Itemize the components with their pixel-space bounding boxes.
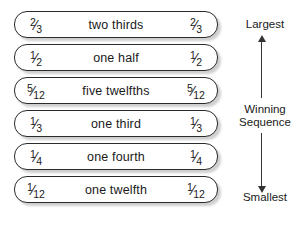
list-item[interactable]: 1⁄12 one twelfth 1⁄12	[14, 176, 220, 205]
axis-label-sequence-line2: Sequence	[228, 116, 302, 129]
fraction-denominator: 12	[33, 89, 45, 101]
fraction-name: two thirds	[57, 18, 175, 32]
left-fraction: 1⁄4	[15, 148, 57, 166]
fraction-denominator: 12	[33, 188, 45, 200]
arrow-up-icon	[258, 35, 266, 42]
fraction-denominator: 3	[196, 23, 202, 35]
fraction-name: one twelfth	[57, 183, 175, 197]
right-fraction: 1⁄3	[175, 115, 217, 133]
left-fraction: 2⁄3	[15, 16, 57, 34]
fraction-denominator: 3	[36, 122, 42, 134]
fraction-name: five twelfths	[57, 84, 175, 98]
list-item[interactable]: 1⁄3 one third 1⁄3	[14, 110, 220, 139]
left-fraction: 1⁄2	[15, 49, 57, 67]
axis-label-sequence: Winning Sequence	[228, 103, 302, 129]
right-fraction: 1⁄4	[175, 148, 217, 166]
axis-label-largest: Largest	[228, 18, 302, 31]
list-item[interactable]: 1⁄4 one fourth 1⁄4	[14, 143, 220, 172]
fraction-pill[interactable]: 2⁄3 two thirds 2⁄3	[14, 11, 218, 38]
fraction-name: one third	[57, 117, 175, 131]
fraction-denominator: 4	[196, 155, 202, 167]
right-fraction: 5⁄12	[175, 82, 217, 100]
axis-label-sequence-line1: Winning	[228, 103, 302, 116]
fraction-pill[interactable]: 1⁄3 one third 1⁄3	[14, 110, 218, 137]
fraction-denominator: 3	[36, 23, 42, 35]
fraction-pill[interactable]: 1⁄2 one half 1⁄2	[14, 44, 218, 71]
left-fraction: 5⁄12	[15, 82, 57, 100]
fraction-denominator: 2	[196, 56, 202, 68]
fraction-pill-list: 2⁄3 two thirds 2⁄3 1⁄2	[14, 11, 220, 205]
left-fraction: 1⁄3	[15, 115, 57, 133]
fraction-name: one half	[57, 51, 175, 65]
axis-label-smallest: Smallest	[228, 191, 302, 204]
list-item[interactable]: 2⁄3 two thirds 2⁄3	[14, 11, 220, 40]
fraction-denominator: 12	[193, 89, 205, 101]
list-item[interactable]: 1⁄2 one half 1⁄2	[14, 44, 220, 73]
list-item[interactable]: 5⁄12 five twelfths 5⁄12	[14, 77, 220, 106]
fraction-denominator: 12	[193, 188, 205, 200]
fraction-pill[interactable]: 1⁄4 one fourth 1⁄4	[14, 143, 218, 170]
fraction-pill[interactable]: 1⁄12 one twelfth 1⁄12	[14, 176, 218, 203]
fraction-name: one fourth	[57, 150, 175, 164]
fraction-denominator: 3	[196, 122, 202, 134]
fraction-sequence-diagram: 2⁄3 two thirds 2⁄3 1⁄2	[0, 0, 302, 234]
fraction-pill[interactable]: 5⁄12 five twelfths 5⁄12	[14, 77, 218, 104]
left-fraction: 1⁄12	[15, 181, 57, 199]
ordering-axis: Largest Winning Sequence Smallest	[228, 0, 302, 234]
fraction-denominator: 4	[36, 155, 42, 167]
axis-line-lower	[261, 133, 262, 189]
right-fraction: 1⁄2	[175, 49, 217, 67]
fraction-denominator: 2	[36, 56, 42, 68]
right-fraction: 2⁄3	[175, 16, 217, 34]
axis-line-upper	[261, 42, 262, 98]
right-fraction: 1⁄12	[175, 181, 217, 199]
